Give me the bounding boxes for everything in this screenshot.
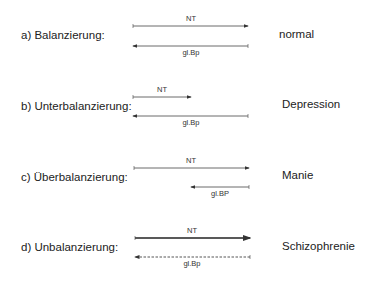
row-label-a: a) Balanzierung: <box>21 29 105 41</box>
nt-label-a: NT <box>186 14 196 23</box>
glbp-label-c: gl.BP <box>211 189 229 198</box>
glbp-label-d: gl.Bp <box>183 259 200 268</box>
glbp-label-a: gl.Bp <box>182 48 199 57</box>
row-a-arrows <box>133 24 248 48</box>
result-a: normal <box>279 28 314 40</box>
nt-label-c: NT <box>186 156 196 165</box>
nt-label-b: NT <box>157 85 167 94</box>
row-c-arrows <box>134 166 249 189</box>
glbp-label-b: gl.Bp <box>182 118 199 127</box>
result-b: Depression <box>282 98 340 110</box>
row-b-arrows <box>133 95 248 118</box>
row-label-b: b) Unterbalanzierung: <box>21 100 132 112</box>
row-d-arrows <box>135 236 250 259</box>
nt-label-d: NT <box>187 226 197 235</box>
row-label-c: c) Überbalanzierung: <box>21 171 128 183</box>
result-c: Manie <box>282 169 313 181</box>
row-label-d: d) Unbalanzierung: <box>21 241 118 253</box>
result-d: Schizophrenie <box>282 240 355 252</box>
